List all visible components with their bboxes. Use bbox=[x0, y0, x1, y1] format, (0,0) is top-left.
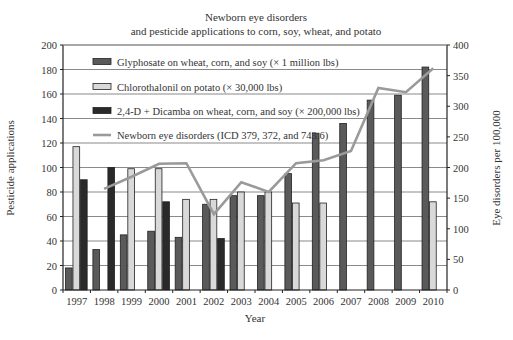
bar bbox=[73, 147, 80, 290]
y2-tick-label: 250 bbox=[453, 132, 469, 143]
x-tick-label: 1997 bbox=[66, 296, 87, 307]
bar bbox=[218, 239, 225, 290]
legend-swatch bbox=[93, 59, 111, 65]
bar bbox=[175, 237, 182, 290]
x-tick-label: 2007 bbox=[341, 296, 362, 307]
bar bbox=[230, 196, 237, 290]
bar bbox=[340, 123, 347, 290]
bar bbox=[163, 202, 170, 290]
x-tick-label: 2010 bbox=[423, 296, 444, 307]
chart: Newborn eye disorders and pesticide appl… bbox=[0, 0, 513, 340]
y-tick-label: 180 bbox=[41, 65, 57, 76]
x-tick-label: 2008 bbox=[368, 296, 389, 307]
y2-tick-label: 350 bbox=[453, 71, 469, 82]
legend-label: Chlorothalonil on potato (× 30,000 lbs) bbox=[117, 82, 283, 94]
chart-subtitle: and pesticide applications to corn, soy,… bbox=[131, 25, 382, 37]
bar bbox=[422, 67, 429, 290]
y-tick-label: 120 bbox=[41, 138, 57, 149]
x-tick-label: 2009 bbox=[395, 296, 416, 307]
legend-swatch bbox=[93, 108, 111, 114]
bar bbox=[203, 204, 210, 290]
gridlines bbox=[63, 45, 447, 266]
y-tick-label: 100 bbox=[41, 163, 57, 174]
y-tick-label: 80 bbox=[47, 187, 58, 198]
bar bbox=[395, 95, 402, 290]
x-axis-label: Year bbox=[245, 312, 266, 324]
y-tick-label: 60 bbox=[47, 212, 58, 223]
x-tick-label: 2000 bbox=[149, 296, 170, 307]
bar bbox=[238, 192, 245, 290]
legend-label: Newborn eye disorders (ICD 379, 372, and… bbox=[117, 130, 329, 142]
y2-tick-label: 50 bbox=[453, 254, 464, 265]
x-tick-label: 1998 bbox=[94, 296, 115, 307]
x-tick-label: 2003 bbox=[231, 296, 252, 307]
y2-tick-label: 0 bbox=[453, 285, 458, 296]
bar bbox=[320, 203, 327, 290]
legend-label: 2,4-D + Dicamba on wheat, corn, and soy … bbox=[117, 106, 360, 118]
y-axis-label: Pesticide applications bbox=[4, 120, 16, 216]
y-tick-label: 40 bbox=[47, 236, 58, 247]
chart-title: Newborn eye disorders bbox=[205, 11, 307, 23]
bar bbox=[430, 202, 437, 290]
bar bbox=[120, 235, 127, 290]
bar bbox=[128, 169, 135, 290]
y2-axis-label: Eye disorders per 100,000 bbox=[490, 110, 502, 226]
x-tick-label: 2006 bbox=[313, 296, 334, 307]
legend-label: Glyphosate on wheat, corn, and soy (× 1 … bbox=[117, 57, 339, 69]
y2-tick-label: 300 bbox=[453, 101, 469, 112]
bar bbox=[148, 231, 155, 290]
bar bbox=[93, 250, 100, 290]
bar bbox=[257, 196, 264, 290]
bar bbox=[155, 169, 162, 290]
y2-tick-label: 400 bbox=[453, 40, 469, 51]
x-tick-label: 2005 bbox=[286, 296, 307, 307]
y-tick-label: 200 bbox=[41, 40, 57, 51]
y-tick-label: 0 bbox=[52, 285, 57, 296]
y2-tick-label: 200 bbox=[453, 163, 469, 174]
bar bbox=[183, 199, 190, 290]
y-tick-label: 160 bbox=[41, 89, 57, 100]
bar bbox=[265, 192, 272, 290]
bar bbox=[292, 203, 299, 290]
axes: 0204060801001201401601802000501001502002… bbox=[41, 40, 469, 307]
bar bbox=[65, 268, 72, 290]
bar bbox=[312, 133, 319, 290]
y-tick-label: 140 bbox=[41, 114, 57, 125]
bar bbox=[285, 174, 292, 290]
y2-tick-label: 100 bbox=[453, 224, 469, 235]
legend-swatch bbox=[93, 84, 111, 90]
x-tick-label: 1999 bbox=[121, 296, 142, 307]
y2-tick-label: 150 bbox=[453, 193, 469, 204]
x-tick-label: 2002 bbox=[203, 296, 224, 307]
x-tick-label: 2001 bbox=[176, 296, 197, 307]
x-tick-label: 2004 bbox=[258, 296, 280, 307]
bar bbox=[80, 180, 87, 290]
y-tick-label: 20 bbox=[47, 261, 58, 272]
bar bbox=[367, 100, 374, 290]
bars bbox=[65, 67, 436, 290]
